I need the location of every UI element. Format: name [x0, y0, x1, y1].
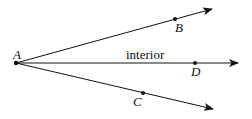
label-a: A	[12, 47, 21, 62]
diagram-svg: A B D C interior	[0, 0, 252, 119]
label-d: D	[190, 64, 201, 79]
interior-label: interior	[126, 47, 165, 62]
angle-diagram: A B D C interior	[0, 0, 252, 119]
label-c: C	[133, 94, 142, 109]
label-b: B	[175, 20, 183, 35]
ray-ac	[16, 63, 213, 109]
ray-ab	[16, 9, 212, 63]
